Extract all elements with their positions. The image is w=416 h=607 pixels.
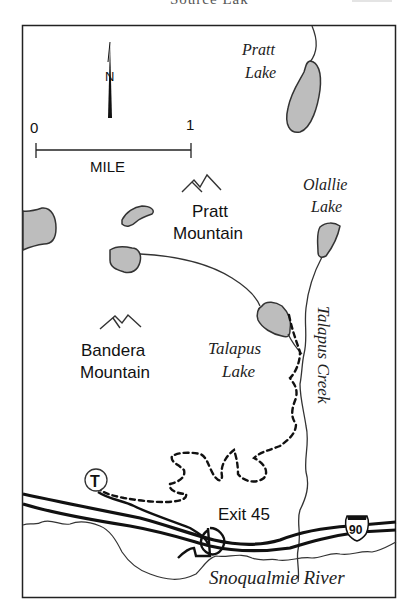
pratt-mountain-peak-icon <box>182 175 221 192</box>
pratt-lake-label-line1: Pratt <box>241 41 275 58</box>
olallie-lake-shape <box>318 223 341 257</box>
upper-basin-lake-shape <box>110 247 141 273</box>
upper-basin-stream <box>140 254 260 306</box>
map-frame <box>23 26 396 598</box>
talapus-lake-shape <box>257 302 290 337</box>
small-lake-north-shape <box>122 206 153 226</box>
olallie-lake-label-line2: Lake <box>310 198 342 215</box>
pratt-lake-label-line2: Lake <box>244 64 276 81</box>
interstate-90-shield-label: 90 <box>349 523 363 537</box>
interstate-90-shield-icon: 90 <box>346 516 369 541</box>
pratt-mountain-label-line1: Pratt <box>192 202 228 221</box>
compass-north-label: N <box>105 69 114 84</box>
bandera-mountain-peak-icon <box>100 315 141 329</box>
scale-unit-label: MILE <box>90 158 125 175</box>
pratt-lake-shape <box>287 61 321 132</box>
west-edge-lake-shape <box>23 208 56 250</box>
exit-45-label: Exit 45 <box>218 505 270 524</box>
pratt-inlet-stream <box>310 26 316 62</box>
scale-end-label: 1 <box>186 116 194 133</box>
bandera-mountain-label-line2: Mountain <box>80 363 150 382</box>
pratt-mountain-label-line2: Mountain <box>173 224 243 243</box>
scale-bar <box>36 143 191 158</box>
trailhead-symbol: T <box>90 473 100 490</box>
trail-map: Pratt Lake N 0 1 MILE Pratt Mountain Ola… <box>0 0 416 607</box>
scale-start-label: 0 <box>30 119 38 136</box>
trailhead-access-road <box>98 492 208 544</box>
talapus-lake-label-line1: Talapus <box>208 339 262 358</box>
olallie-lake-label-line1: Olallie <box>303 176 347 193</box>
bandera-mountain-label-line1: Bandera <box>81 341 146 360</box>
talapus-creek-label: Talapus Creek <box>314 306 333 404</box>
snoqualmie-river-label: Snoqualmie River <box>209 567 345 588</box>
trailhead-marker[interactable]: T <box>85 469 107 491</box>
talapus-lake-label-line2: Lake <box>221 362 256 381</box>
